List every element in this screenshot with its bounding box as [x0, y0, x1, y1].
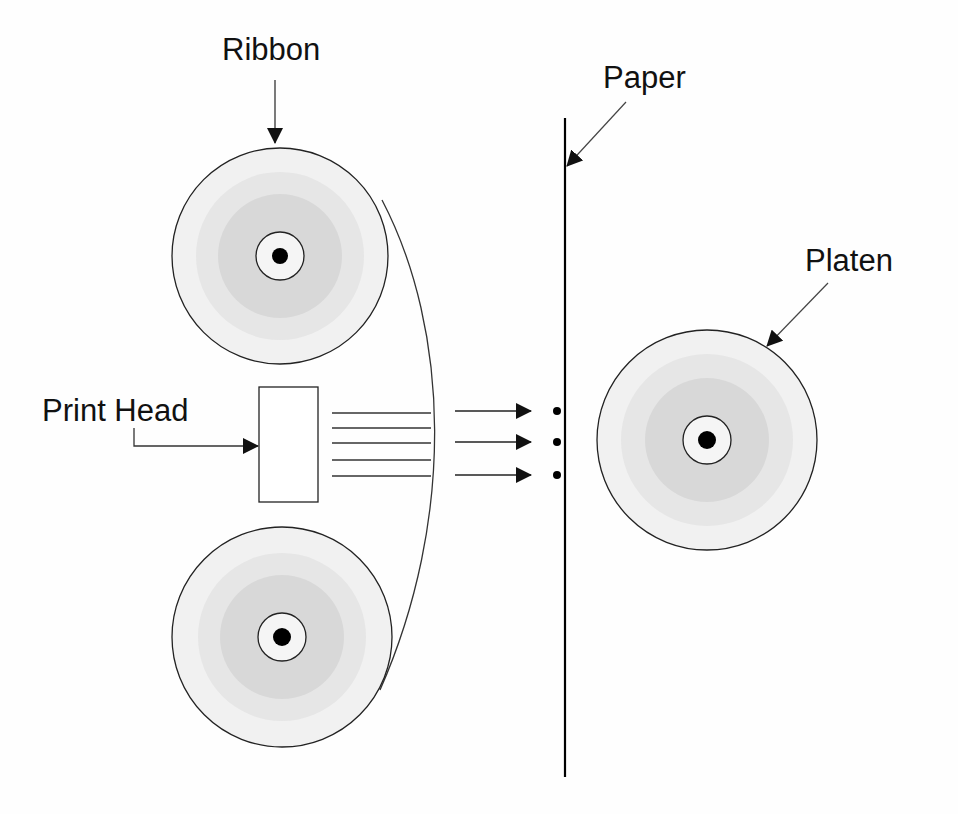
platen-label: Platen	[805, 243, 893, 278]
impact-arrows	[455, 411, 531, 475]
axle-icon	[272, 248, 288, 264]
platen-pointer-arrow	[767, 283, 828, 346]
print-wires	[332, 413, 431, 476]
print-dots	[553, 407, 561, 479]
paper-pointer-arrow	[567, 102, 626, 166]
print-head-pointer-arrow	[134, 428, 258, 446]
paper-label: Paper	[603, 60, 686, 95]
diagram-svg: Ribbon Paper Platen Print Head	[0, 0, 958, 814]
ribbon-label: Ribbon	[222, 32, 320, 67]
platen-roller	[597, 330, 817, 550]
print-head-label: Print Head	[42, 393, 188, 428]
axle-icon	[273, 628, 291, 646]
ribbon-reel-top	[172, 148, 388, 364]
ribbon-reel-bottom	[172, 527, 392, 747]
printer-diagram: Ribbon Paper Platen Print Head	[0, 0, 958, 814]
axle-icon	[698, 431, 716, 449]
print-head	[259, 387, 318, 502]
